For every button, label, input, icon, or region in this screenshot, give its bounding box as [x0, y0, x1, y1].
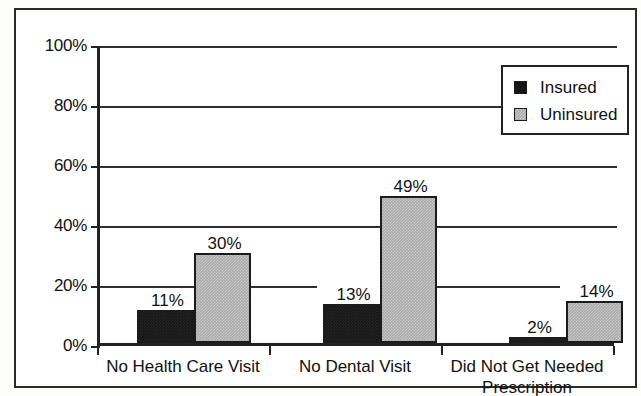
y-axis-tick-label: 80% [54, 96, 87, 116]
legend-swatch-icon [514, 81, 527, 94]
x-axis-tick [613, 346, 615, 355]
legend-item-label: Uninsured [540, 105, 618, 125]
x-axis-tick [441, 346, 443, 355]
bar-uninsured-0 [194, 253, 251, 343]
x-axis-category-label: No Health Care Visit [97, 356, 269, 377]
gridline [100, 166, 617, 168]
x-axis-category-label-line: Did Not Get Needed [441, 356, 613, 377]
x-axis-labels: No Health Care VisitNo Dental VisitDid N… [97, 356, 614, 396]
y-axis-tick-label: 0% [63, 336, 87, 356]
chart-legend: InsuredUninsured [501, 65, 629, 135]
bar-insured-1 [323, 304, 380, 343]
x-axis-tick [269, 346, 271, 355]
y-axis-tick [91, 226, 100, 228]
bar-value-label: 49% [374, 177, 447, 196]
bar-uninsured-2 [566, 301, 623, 343]
y-axis-tick [91, 166, 100, 168]
y-axis-tick [91, 106, 100, 108]
legend-swatch-icon [514, 108, 527, 121]
bar-value-label: 14% [560, 282, 633, 301]
gridline [100, 226, 617, 228]
x-axis-category-label-line: No Health Care Visit [97, 356, 269, 377]
y-axis-tick-label: 60% [54, 156, 87, 176]
y-axis-tick [91, 46, 100, 48]
bar-chart-figure: 100%80%60%40%20%0% 11%30%13%49%2%14% No … [0, 0, 641, 396]
legend-item-uninsured: Uninsured [514, 101, 627, 128]
bar-uninsured-1 [380, 196, 437, 343]
gridline [100, 46, 617, 48]
bar-insured-2 [509, 337, 566, 343]
legend-item-label: Insured [540, 78, 597, 98]
y-axis-tick-label: 100% [45, 36, 87, 56]
y-axis-labels: 100%80%60%40%20%0% [16, 46, 87, 346]
x-axis-category-label: Did Not Get NeededPrescription [441, 356, 613, 396]
x-axis-category-label-line: Prescription [441, 377, 613, 396]
x-axis-category-label: No Dental Visit [269, 356, 441, 377]
x-axis-tick [97, 346, 99, 355]
legend-item-insured: Insured [514, 74, 627, 101]
x-axis-ticks [97, 346, 614, 356]
y-axis-tick-label: 20% [54, 276, 87, 296]
chart-outer-frame: 100%80%60%40%20%0% 11%30%13%49%2%14% No … [14, 8, 637, 388]
y-axis-tick-label: 40% [54, 216, 87, 236]
bar-insured-0 [137, 310, 194, 343]
bar-value-label: 30% [188, 234, 261, 253]
x-axis-category-label-line: No Dental Visit [269, 356, 441, 377]
y-axis-tick [91, 286, 100, 288]
